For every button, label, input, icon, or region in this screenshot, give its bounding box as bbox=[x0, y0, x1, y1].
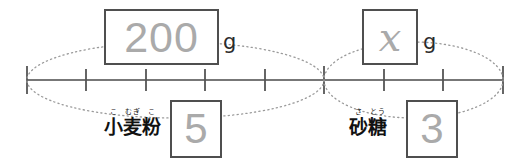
sugar-parts-box[interactable]: 3 bbox=[406, 100, 458, 158]
sugar-unit-label: g bbox=[423, 32, 436, 53]
kanji-character: 粉 bbox=[142, 117, 161, 138]
kanji-character: 糖 bbox=[368, 117, 387, 138]
ruby-group: こ 小 bbox=[104, 108, 123, 138]
kanji-character: 砂 bbox=[349, 117, 368, 138]
flour-unit-label: g bbox=[223, 32, 236, 53]
ruby-group: むぎ 麦 bbox=[123, 108, 142, 138]
flour-name-label: こ 小 むぎ 麦 こ 粉 bbox=[104, 108, 161, 138]
kanji-character: 小 bbox=[104, 117, 123, 138]
flour-parts-box[interactable]: 5 bbox=[170, 100, 222, 158]
flour-amount-box[interactable]: 200 bbox=[104, 9, 219, 65]
sugar-name-label: さ 砂 とう 糖 bbox=[349, 108, 387, 138]
ruby-group: とう 糖 bbox=[368, 108, 387, 138]
diagram-canvas: 200 g x g 5 3 こ 小 むぎ 麦 こ 粉 さ 砂 とう 糖 bbox=[0, 0, 530, 166]
ruby-group: さ 砂 bbox=[349, 108, 368, 138]
kanji-character: 麦 bbox=[123, 117, 142, 138]
sugar-amount-box[interactable]: x bbox=[362, 9, 418, 65]
ruby-group: こ 粉 bbox=[142, 108, 161, 138]
